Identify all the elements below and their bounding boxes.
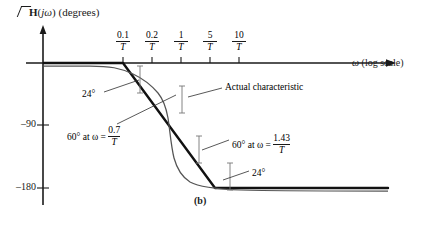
x-tick-label-3-numerator: 5 <box>195 31 225 41</box>
x-tick-label-0-numerator: 0.1 <box>108 31 138 41</box>
x-tick-label-1: 0.2 T <box>137 31 167 53</box>
y-axis-title-jw: jω <box>41 6 52 18</box>
y-axis-arrowhead <box>40 25 47 34</box>
y-tick-label-minus-90: –90 <box>10 118 36 129</box>
annotation-slope-right-numerator: 1.43 <box>273 134 290 144</box>
leader-slope-right <box>202 140 229 150</box>
leader-slope-left <box>117 95 176 124</box>
leader-deviation-upper <box>104 80 139 92</box>
x-tick-marks <box>123 57 239 63</box>
x-tick-label-3-denominator: T <box>195 43 225 53</box>
annotation-actual-characteristic: Actual characteristic <box>225 82 303 92</box>
annotation-slope-left-fraction: 0.7 T <box>108 126 120 147</box>
x-tick-label-2: 1 T <box>166 31 196 53</box>
annotation-slope-right-text: 60° at ω = <box>232 140 271 150</box>
y-axis-title: H(jω) (degrees) <box>19 6 99 18</box>
x-tick-label-1-numerator: 0.2 <box>137 31 167 41</box>
x-tick-label-0-denominator: T <box>108 43 138 53</box>
annotation-slope-right-fraction: 1.43 T <box>273 134 290 155</box>
x-tick-label-4-denominator: T <box>224 43 254 53</box>
leader-deviation-lower <box>223 171 249 180</box>
annotation-slope-right: 60° at ω = 1.43 T <box>232 134 290 155</box>
y-axis-title-units: (degrees) <box>56 6 100 18</box>
slope-marker-right <box>196 136 202 163</box>
x-tick-label-3: 5 T <box>195 31 225 53</box>
annotation-slope-left-numerator: 0.7 <box>108 126 120 136</box>
x-axis-label-symbol: ω <box>352 57 359 68</box>
x-axis-label: ω (log scale) <box>352 57 404 68</box>
slope-marker-left <box>179 86 185 113</box>
x-tick-label-4-numerator: 10 <box>224 31 254 41</box>
x-tick-label-4: 10 T <box>224 31 254 53</box>
y-tick-label-minus-180: –180 <box>6 181 36 192</box>
annotation-slope-left-text: 60° at ω = <box>67 132 106 142</box>
leader-actual-characteristic <box>188 88 222 97</box>
x-tick-label-1-denominator: T <box>137 43 167 53</box>
x-axis-label-units: (log scale) <box>359 57 403 68</box>
x-tick-label-0: 0.1 T <box>108 31 138 53</box>
annotation-slope-left-denominator: T <box>108 138 120 148</box>
annotation-slope-right-denominator: T <box>273 146 290 156</box>
x-tick-label-2-denominator: T <box>166 43 196 53</box>
annotation-deviation-lower: 24° <box>252 168 265 178</box>
annotation-deviation-upper: 24° <box>82 89 95 99</box>
figure-label: (b) <box>194 195 206 206</box>
x-tick-label-2-numerator: 1 <box>166 31 196 41</box>
annotation-slope-left: 60° at ω = 0.7 T <box>67 126 120 147</box>
